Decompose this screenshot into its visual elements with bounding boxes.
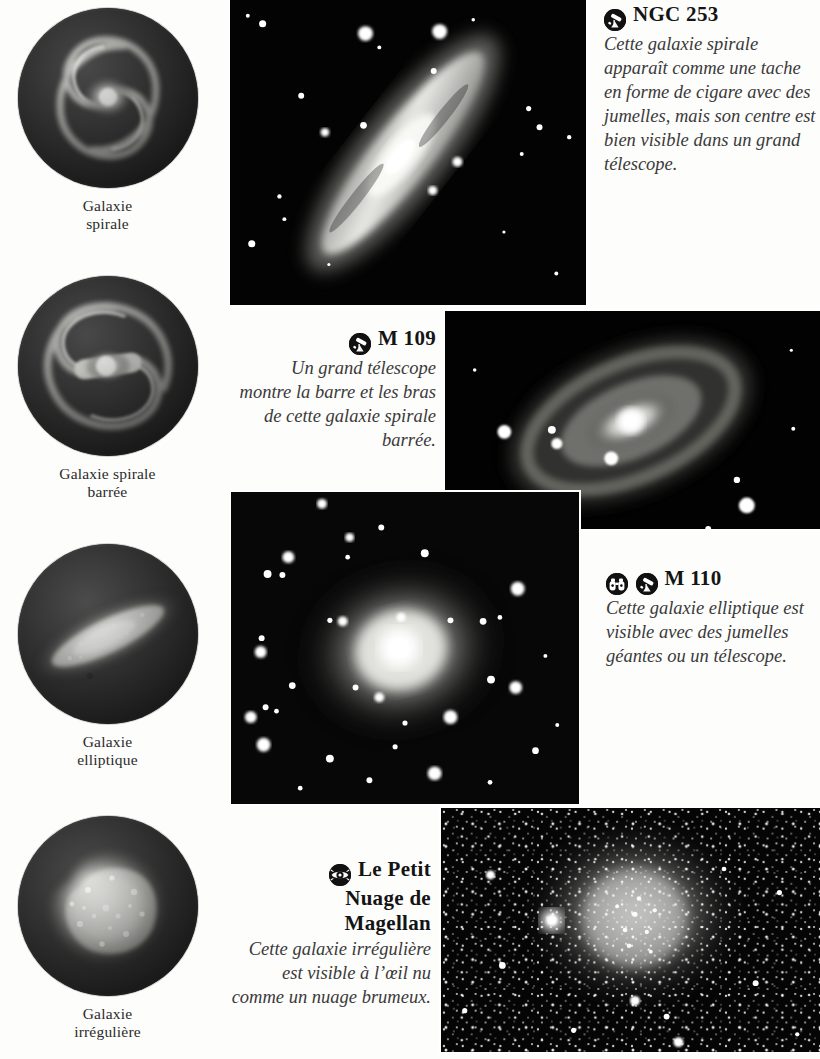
label-line-1: Galaxie	[83, 197, 133, 214]
caption-title-text: NGC 253	[633, 2, 719, 26]
label-line-2: elliptique	[77, 751, 138, 768]
galaxy-types-column: Galaxie spirale	[0, 0, 215, 1059]
elliptical-galaxy-illustration	[18, 544, 198, 724]
visibility-icons	[606, 570, 660, 595]
telescope-icon	[636, 573, 658, 595]
galaxy-type-label: Galaxie irrégulière	[0, 1005, 215, 1042]
caption-body-smc: Cette galaxie irrégulière est visible à …	[228, 937, 431, 1009]
binoculars-icon	[606, 573, 628, 595]
caption-title-text: M 109	[378, 326, 436, 350]
galaxy-type-label: Galaxie spirale	[0, 197, 215, 234]
galaxy-type-spiral: Galaxie spirale	[0, 8, 215, 234]
eye-icon	[329, 864, 351, 886]
m110-photo	[229, 490, 581, 806]
label-line-1: Galaxie	[83, 733, 133, 750]
telescope-icon	[604, 9, 626, 31]
caption-title-line-2: Nuage de	[345, 886, 431, 910]
label-line-2: barrée	[88, 483, 128, 500]
book-page: Galaxie spirale	[0, 0, 820, 1059]
galaxy-type-label: Galaxie spirale barrée	[0, 465, 215, 502]
caption-title-m109: M 109	[238, 326, 436, 355]
caption-m109: M 109 Un grand télescope montre la barre…	[238, 326, 436, 452]
label-line-1: Galaxie spirale	[59, 465, 155, 482]
label-line-1: Galaxie	[83, 1005, 133, 1022]
caption-body-ngc253: Cette galaxie spirale apparaît comme une…	[604, 32, 818, 176]
visibility-icons	[604, 6, 628, 31]
label-line-2: irrégulière	[74, 1023, 141, 1040]
caption-body-m109: Un grand télescope montre la barre et le…	[238, 356, 436, 452]
galaxy-type-elliptical: Galaxie elliptique	[0, 544, 215, 770]
caption-title-text: M 110	[665, 566, 722, 590]
caption-title-line-3: Magellan	[345, 911, 431, 935]
barred-spiral-galaxy-illustration	[18, 276, 198, 456]
irregular-galaxy-illustration	[18, 816, 198, 996]
caption-title-m110: M 110	[606, 566, 820, 595]
smc-photo	[439, 806, 820, 1054]
caption-smc: Le Petit Nuage de Magellan Cette galaxie…	[228, 857, 431, 1009]
telescope-icon	[349, 333, 371, 355]
galaxy-type-irregular: Galaxie irrégulière	[0, 816, 215, 1042]
ngc253-photo	[228, 0, 588, 307]
caption-title-smc: Le Petit Nuage de Magellan	[228, 857, 431, 936]
galaxy-type-barred-spiral: Galaxie spirale barrée	[0, 276, 215, 502]
caption-title-line-1: Le Petit	[358, 857, 431, 881]
caption-ngc253: NGC 253 Cette galaxie spirale apparaît c…	[604, 2, 818, 176]
spiral-galaxy-illustration	[18, 8, 198, 188]
label-line-2: spirale	[86, 215, 129, 232]
caption-body-m110: Cette galaxie elliptique est visible ave…	[606, 596, 820, 668]
galaxy-type-label: Galaxie elliptique	[0, 733, 215, 770]
caption-title-ngc253: NGC 253	[604, 2, 818, 31]
caption-m110: M 110 Cette galaxie elliptique est visib…	[606, 566, 820, 668]
visibility-icons	[349, 330, 373, 355]
visibility-icons	[329, 861, 353, 886]
